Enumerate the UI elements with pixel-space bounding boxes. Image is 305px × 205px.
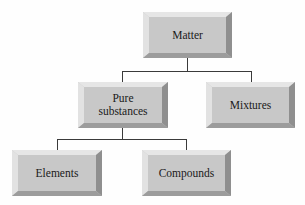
node-compounds: Compounds bbox=[142, 150, 231, 196]
node-matter: Matter bbox=[143, 12, 232, 58]
node-label-elements: Elements bbox=[36, 167, 79, 180]
node-elements: Elements bbox=[12, 150, 102, 196]
node-mixtures: Mixtures bbox=[206, 82, 295, 128]
node-face: Pure substances bbox=[84, 87, 162, 123]
bevel-right bbox=[289, 82, 295, 128]
node-label-pure-substances: Pure substances bbox=[98, 92, 147, 118]
connector-to-elements bbox=[57, 139, 58, 150]
connector-to-compounds bbox=[186, 139, 187, 150]
bevel-bottom bbox=[12, 191, 102, 196]
bevel-bottom bbox=[78, 123, 168, 128]
bevel-right bbox=[162, 82, 168, 128]
node-label-matter: Matter bbox=[172, 29, 203, 42]
node-label-compounds: Compounds bbox=[159, 167, 215, 180]
bevel-right bbox=[226, 12, 232, 58]
connector-level2-horizontal bbox=[122, 71, 252, 72]
node-pure-substances: Pure substances bbox=[78, 82, 168, 128]
bevel-right bbox=[96, 150, 102, 196]
matter-classification-diagram: Matter Pure substances Mixtures Elements bbox=[0, 0, 305, 205]
node-face: Compounds bbox=[148, 155, 225, 191]
connector-to-pure-substances bbox=[122, 71, 123, 82]
bevel-right bbox=[225, 150, 231, 196]
bevel-bottom bbox=[206, 123, 295, 128]
connector-matter-down bbox=[187, 57, 188, 72]
bevel-bottom bbox=[142, 191, 231, 196]
node-face: Elements bbox=[18, 155, 96, 191]
bevel-bottom bbox=[143, 53, 232, 58]
connector-to-mixtures bbox=[251, 71, 252, 82]
node-face: Matter bbox=[149, 17, 226, 53]
node-face: Mixtures bbox=[212, 87, 289, 123]
connector-level3-horizontal bbox=[57, 139, 187, 140]
node-label-mixtures: Mixtures bbox=[230, 99, 272, 112]
